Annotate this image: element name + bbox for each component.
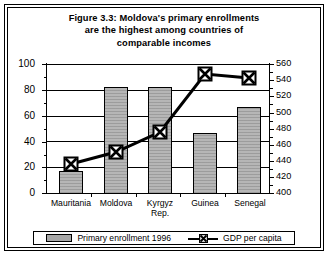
x-tick-3 [180, 193, 181, 197]
y-right-tick-490 [270, 121, 273, 122]
bar-guinea [193, 133, 217, 194]
y-right-label-400: 400 [276, 188, 310, 197]
y-right-tick-560 [270, 64, 274, 65]
y-left-tick-40 [42, 142, 46, 143]
gridline-100 [46, 64, 269, 65]
y-right-label-520: 520 [276, 91, 310, 100]
chart-title: Figure 3.3: Moldova's primary enrollment… [24, 12, 304, 49]
y-left-label-20: 20 [0, 162, 35, 172]
legend-swatch-primary-enrollment [46, 234, 72, 242]
x-label-mauritania: Mauritania [44, 199, 98, 209]
legend-x-marker-icon [199, 234, 208, 243]
y-left-label-40: 40 [0, 137, 35, 147]
y-right-label-440: 440 [276, 156, 310, 165]
y-left-tick-20 [42, 167, 46, 168]
chart-title-line-3: comparable incomes [24, 37, 304, 49]
x-label-moldova: Moldova [92, 199, 140, 209]
y-right-tick-410 [270, 185, 273, 186]
y-right-tick-550 [270, 72, 273, 73]
bar-moldova [104, 87, 128, 194]
x-label-kyrgyz-rep-line-2: Rep. [139, 209, 181, 219]
y-left-tick-30 [44, 155, 47, 156]
y-left-tick-10 [44, 180, 47, 181]
y-right-tick-510 [270, 104, 273, 105]
x-label-guinea: Guinea [184, 199, 226, 209]
x-tick-1 [91, 193, 92, 197]
bar-mauritania [59, 171, 83, 194]
y-right-tick-420 [270, 177, 274, 178]
y-left-label-0: 0 [0, 188, 35, 198]
y-left-tick-0 [42, 193, 46, 194]
y-left-tick-70 [44, 103, 47, 104]
y-right-tick-530 [270, 88, 273, 89]
x-tick-2 [136, 193, 137, 197]
y-right-tick-520 [270, 96, 274, 97]
x-label-kyrgyz-rep: Kyrgyz Rep. [139, 199, 181, 218]
chart-title-line-1: Figure 3.3: Moldova's primary enrollment… [24, 12, 304, 24]
x-tick-4 [225, 193, 226, 197]
bar-senegal [237, 107, 261, 194]
y-left-tick-80 [42, 90, 46, 91]
legend-label-primary-enrollment: Primary enrollment 1996 [77, 233, 171, 243]
y-left-label-80: 80 [0, 85, 35, 95]
y-right-tick-430 [270, 169, 273, 170]
y-left-tick-100 [42, 64, 46, 65]
chart-title-line-2: are the highest among countries of [24, 24, 304, 36]
y-right-tick-540 [270, 80, 274, 81]
y-right-tick-450 [270, 153, 273, 154]
legend-label-gdp-per-capita: GDP per capita [223, 233, 282, 243]
bar-kyrgyz-rep [148, 87, 172, 194]
y-right-label-540: 540 [276, 75, 310, 84]
y-left-label-60: 60 [0, 111, 35, 121]
y-left-tick-60 [42, 116, 46, 117]
legend-marker-gdp [188, 234, 218, 243]
y-right-label-500: 500 [276, 108, 310, 117]
y-right-tick-400 [270, 193, 274, 194]
x-label-senegal: Senegal [228, 199, 272, 209]
y-right-label-560: 560 [276, 59, 310, 68]
y-left-tick-90 [44, 77, 47, 78]
y-right-tick-500 [270, 113, 274, 114]
y-right-label-480: 480 [276, 124, 310, 133]
y-left-tick-50 [44, 129, 47, 130]
y-right-tick-470 [270, 137, 273, 138]
chart-legend: Primary enrollment 1996 GDP per capita [33, 231, 295, 245]
figure-chart: Figure 3.3: Moldova's primary enrollment… [0, 0, 328, 255]
y-right-tick-440 [270, 161, 274, 162]
y-right-label-420: 420 [276, 172, 310, 181]
y-left-label-100: 100 [0, 59, 35, 69]
y-right-label-460: 460 [276, 140, 310, 149]
y-right-tick-460 [270, 145, 274, 146]
y-right-tick-480 [270, 129, 274, 130]
